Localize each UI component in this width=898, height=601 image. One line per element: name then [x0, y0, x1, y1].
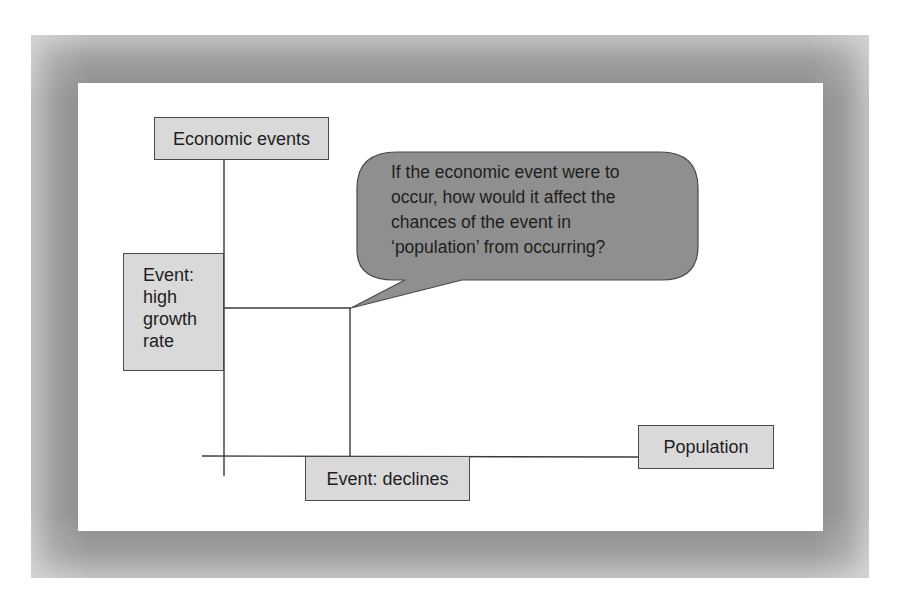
y-axis-label: Economic events	[173, 128, 310, 150]
y-event-line: rate	[143, 330, 223, 352]
y-axis-label-box: Economic events	[154, 117, 329, 160]
x-event-box: Event: declines	[305, 456, 470, 501]
x-axis-label: Population	[663, 436, 748, 458]
callout-line: occur, how would it affect the	[391, 185, 691, 210]
y-event-line: growth	[143, 308, 223, 330]
callout-line: If the economic event were to	[391, 160, 691, 185]
y-event-line: high	[143, 286, 223, 308]
callout-line: ‘population’ from occurring?	[391, 235, 691, 260]
callout-line: chances of the event in	[391, 210, 691, 235]
y-event-box: Event: high growth rate	[123, 253, 224, 371]
y-event-line: Event:	[143, 264, 223, 286]
x-event-label: Event: declines	[326, 468, 448, 490]
x-axis-label-box: Population	[638, 425, 774, 469]
callout-text: If the economic event were to occur, how…	[391, 160, 691, 260]
